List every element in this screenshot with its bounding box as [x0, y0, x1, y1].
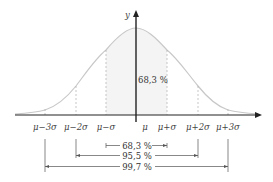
tick-mu-minus-2sigma: μ−2σ [64, 122, 88, 132]
interval-label-two-sigma: 95,5 % [122, 151, 152, 161]
tick-mu-minus-sigma: μ−σ [97, 122, 116, 132]
interval-label-one-sigma: 68,3 % [122, 141, 152, 151]
x-axis-arrow-icon [255, 112, 262, 118]
center-percentage-label: 68,3 % [138, 75, 168, 85]
tick-mu-plus-sigma: μ+σ [158, 122, 177, 132]
y-axis-arrow-icon [133, 10, 139, 17]
normal-distribution-diagram: y 68,3 % μ−3σ μ−2σ μ−σ μ μ+σ μ+2σ μ+3σ [0, 0, 273, 182]
tick-mu-minus-3sigma: μ−3σ [33, 122, 57, 132]
interval-label-three-sigma: 99,7 % [122, 162, 152, 172]
tick-mu-plus-2sigma: μ+2σ [186, 122, 210, 132]
x-tick-labels: μ−3σ μ−2σ μ−σ μ μ+σ μ+2σ μ+3σ [33, 122, 240, 132]
tick-mu-plus-3sigma: μ+3σ [216, 122, 240, 132]
y-axis-label: y [124, 10, 130, 20]
tick-mu: μ [142, 122, 148, 132]
